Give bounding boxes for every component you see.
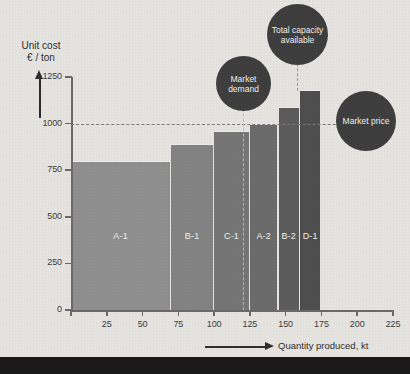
y-tick-label-750: 750 — [26, 164, 62, 174]
x-tick-100 — [213, 310, 215, 316]
x-tick-50 — [142, 310, 144, 316]
chart-root: A-1B-1C-1A-2B-2D-1 025050075010001250 25… — [0, 0, 410, 374]
bar-label-b-2: B-2 — [279, 231, 299, 241]
y-axis-line — [71, 77, 73, 311]
callout-market-demand: Market demand — [216, 56, 271, 111]
bar-a-1: A-1 — [71, 161, 171, 310]
x-tick-label-50: 50 — [128, 319, 158, 329]
x-tick-label-175: 175 — [306, 319, 336, 329]
x-tick-label-100: 100 — [199, 319, 229, 329]
y-tick-500 — [65, 216, 72, 218]
y-tick-label-1000: 1000 — [26, 118, 62, 128]
y-tick-250 — [65, 263, 72, 265]
bar-label-a-1: A-1 — [71, 231, 170, 241]
bar-b-2: B-2 — [279, 107, 300, 310]
x-tick-label-225: 225 — [378, 319, 408, 329]
y-tick-label-500: 500 — [26, 211, 62, 221]
y-axis-title: Unit cost € / ton — [5, 40, 77, 64]
y-tick-label-250: 250 — [26, 257, 62, 267]
x-tick-175 — [321, 310, 323, 316]
x-tick-label-25: 25 — [92, 319, 122, 329]
y-axis-arrow-head-icon — [35, 70, 43, 79]
callout-market-price-label: Market price — [343, 116, 390, 126]
callout-total-capacity-label: Total capacity available — [269, 25, 326, 45]
market-price-reference-line — [71, 124, 371, 125]
callout-market-price: Market price — [336, 91, 396, 151]
callout-total-capacity: Total capacity available — [267, 4, 328, 65]
x-axis-arrow-head-icon — [265, 342, 274, 350]
x-tick-25 — [106, 310, 108, 316]
bar-a-2: A-2 — [250, 124, 279, 310]
x-tick-125 — [249, 310, 251, 316]
callout-market-demand-label: Market demand — [218, 74, 269, 94]
x-tick-label-125: 125 — [235, 319, 265, 329]
x-axis-title: Quantity produced, kt — [278, 340, 368, 351]
bar-b-1: B-1 — [171, 144, 214, 310]
footer-band — [0, 357, 410, 374]
x-tick-75 — [178, 310, 180, 316]
y-tick-750 — [65, 169, 72, 171]
y-tick-label-0: 0 — [26, 304, 62, 314]
y-tick-1000 — [65, 123, 72, 125]
x-tick-150 — [285, 310, 287, 316]
y-axis-title-line2: € / ton — [5, 52, 77, 64]
x-tick-225 — [392, 310, 394, 316]
y-axis-arrow-shaft — [39, 77, 41, 118]
bar-label-a-2: A-2 — [250, 231, 278, 241]
y-tick-1250 — [65, 76, 72, 78]
bar-label-d-1: D-1 — [300, 231, 320, 241]
y-axis-title-line1: Unit cost — [5, 40, 77, 52]
x-axis-arrow-shaft — [205, 346, 267, 348]
y-tick-label-1250: 1250 — [26, 71, 62, 81]
x-tick-0 — [70, 310, 72, 316]
chart-plot-area: A-1B-1C-1A-2B-2D-1 025050075010001250 25… — [0, 0, 410, 374]
x-tick-label-150: 150 — [271, 319, 301, 329]
bar-label-b-1: B-1 — [171, 231, 213, 241]
x-tick-label-75: 75 — [163, 319, 193, 329]
x-tick-200 — [356, 310, 358, 316]
market-demand-reference-line — [243, 84, 244, 310]
x-axis-line — [71, 310, 393, 312]
bar-c-1: C-1 — [214, 131, 250, 310]
x-tick-label-200: 200 — [342, 319, 372, 329]
